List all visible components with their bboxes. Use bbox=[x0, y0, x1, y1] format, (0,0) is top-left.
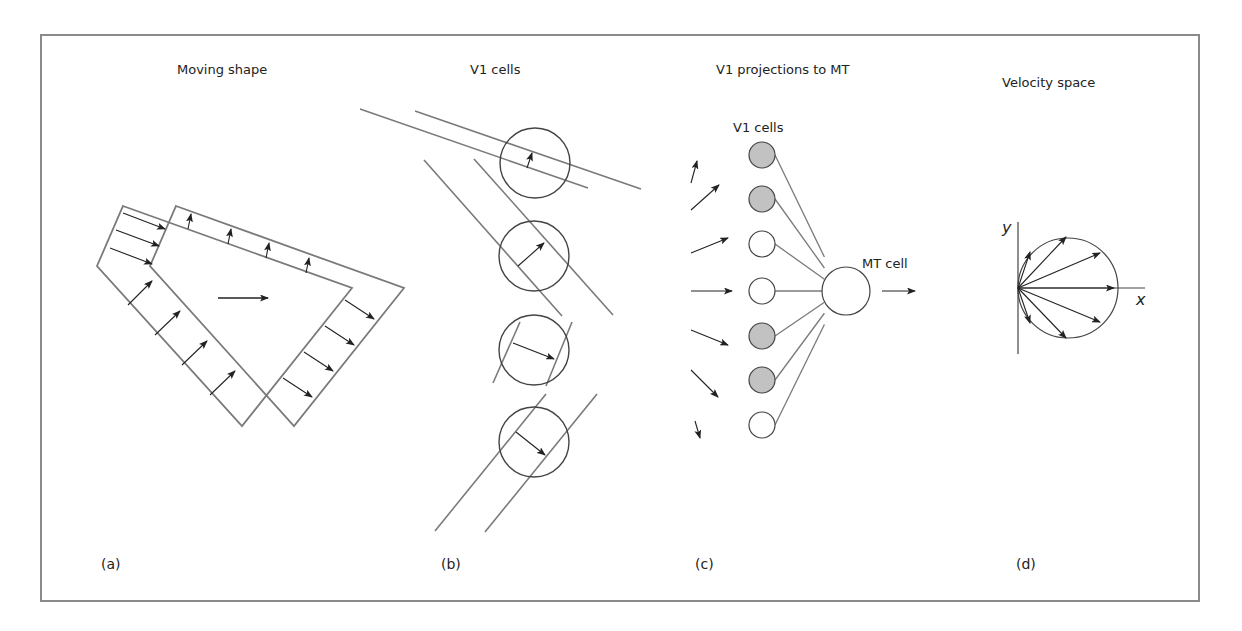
edge-motion-arrow bbox=[228, 229, 231, 244]
edge-line bbox=[360, 109, 588, 188]
edge-motion-arrow bbox=[210, 371, 235, 395]
local-motion-arrow bbox=[516, 432, 545, 455]
moving-shape-previous-outline bbox=[97, 206, 352, 426]
edge-motion-arrow bbox=[116, 230, 159, 246]
edge-motion-arrow bbox=[182, 341, 207, 365]
panel-a-title: Moving shape bbox=[177, 62, 267, 77]
edge-line bbox=[424, 160, 562, 316]
edge-motion-arrow bbox=[306, 258, 309, 273]
edge-motion-arrow bbox=[155, 311, 180, 335]
v1-cells-label: V1 cells bbox=[733, 120, 783, 135]
panel-b-title: V1 cells bbox=[470, 62, 520, 77]
v1-direction-arrow bbox=[691, 330, 728, 345]
v1-cell bbox=[749, 142, 775, 168]
edge-line bbox=[415, 111, 641, 189]
edge-motion-arrow bbox=[128, 281, 152, 305]
mt-cell bbox=[822, 267, 870, 315]
projection-line bbox=[775, 302, 824, 336]
v1-cell bbox=[749, 412, 775, 438]
panel-d-title: Velocity space bbox=[1002, 75, 1095, 90]
edge-motion-arrow bbox=[345, 300, 374, 319]
panel-b-letter: (b) bbox=[441, 556, 461, 572]
edge-motion-arrow bbox=[110, 248, 152, 264]
panel-c-letter: (c) bbox=[695, 556, 714, 572]
v1-cell bbox=[749, 231, 775, 257]
v1-direction-arrow bbox=[691, 161, 697, 183]
edge-motion-arrow bbox=[283, 378, 312, 397]
v1-direction-arrow bbox=[691, 238, 728, 253]
edge-motion-arrow bbox=[188, 214, 191, 229]
panel-d-letter: (d) bbox=[1016, 556, 1036, 572]
y-axis-label: y bbox=[1002, 218, 1011, 237]
edge-line bbox=[435, 394, 546, 531]
edge-line bbox=[493, 322, 520, 383]
velocity-vector bbox=[1018, 252, 1030, 288]
edge-line bbox=[474, 159, 613, 315]
local-motion-arrow bbox=[513, 343, 554, 359]
edge-line bbox=[485, 394, 597, 532]
panel-d-velocity-space bbox=[1018, 222, 1145, 354]
local-motion-arrow bbox=[518, 243, 544, 266]
v1-cell bbox=[749, 186, 775, 212]
diagram-canvas bbox=[0, 0, 1242, 631]
x-axis-label: x bbox=[1136, 290, 1145, 309]
edge-motion-arrow bbox=[325, 326, 354, 345]
v1-direction-arrow bbox=[691, 370, 718, 397]
v1-cell bbox=[749, 367, 775, 393]
panel-a-moving-shape bbox=[97, 206, 404, 426]
edge-motion-arrow bbox=[123, 213, 165, 229]
receptive-field-circle bbox=[499, 315, 569, 385]
panel-b-v1-cells bbox=[360, 109, 641, 532]
panel-a-letter: (a) bbox=[101, 556, 121, 572]
edge-motion-arrow bbox=[266, 243, 269, 258]
local-motion-arrow bbox=[527, 153, 532, 168]
panel-c-v1-projections bbox=[691, 142, 915, 438]
mt-cell-label: MT cell bbox=[862, 256, 908, 271]
edge-motion-arrow bbox=[304, 352, 333, 371]
velocity-vector bbox=[1018, 288, 1100, 322]
v1-cell bbox=[749, 323, 775, 349]
v1-cell bbox=[749, 278, 775, 304]
v1-direction-arrow bbox=[695, 421, 700, 438]
projection-line bbox=[775, 199, 824, 268]
v1-direction-arrow bbox=[691, 185, 719, 210]
projection-line bbox=[775, 313, 824, 380]
moving-shape-current-outline bbox=[150, 206, 404, 426]
receptive-field-circle bbox=[500, 128, 570, 198]
velocity-vector bbox=[1018, 253, 1100, 288]
velocity-vector bbox=[1018, 288, 1030, 323]
projection-line bbox=[775, 155, 824, 257]
panel-c-title: V1 projections to MT bbox=[716, 62, 849, 77]
projection-line bbox=[775, 244, 824, 279]
projection-line bbox=[775, 325, 824, 426]
